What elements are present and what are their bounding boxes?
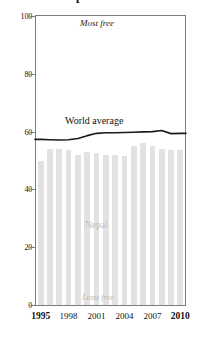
annotation-least-free: Least free [82, 293, 113, 302]
y-tick-label: 20 [8, 243, 32, 252]
line-series-world-average [35, 15, 186, 306]
y-tick-label: 60 [8, 127, 32, 136]
annotation-nepal: Nepal [85, 220, 108, 230]
x-tick-label: 1995 [31, 311, 50, 321]
annotation-world-average: World average [65, 115, 123, 126]
world-average-polyline [35, 130, 186, 140]
x-tick-label: 1998 [60, 311, 78, 321]
chart-title-clipped: Nepal [0, 0, 198, 7]
y-tick-label: 100 [8, 12, 32, 21]
y-tick-label: 80 [8, 69, 32, 78]
y-tick-label: 0 [8, 301, 32, 310]
x-tick-label: 2001 [88, 311, 106, 321]
x-tick-label: 2004 [115, 311, 133, 321]
chart-nepal-economic-freedom: Nepal 100806040200 Most free Least free … [0, 0, 198, 340]
x-tick-label: 2010 [171, 311, 190, 321]
annotation-most-free: Most free [80, 18, 114, 28]
y-tick-label: 40 [8, 185, 32, 194]
x-tick-label: 2007 [143, 311, 161, 321]
page-title: Nepal [62, 0, 92, 4]
